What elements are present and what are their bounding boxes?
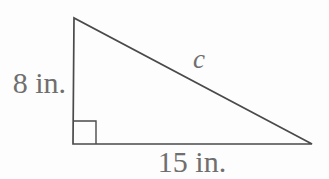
vertical-leg-label: 8 in. — [13, 66, 66, 99]
horizontal-leg-label: 15 in. — [158, 145, 226, 178]
triangle-canvas: 8 in. 15 in. c — [0, 0, 329, 179]
hypotenuse-label: c — [193, 44, 205, 74]
triangle-figure: 8 in. 15 in. c — [0, 0, 329, 179]
